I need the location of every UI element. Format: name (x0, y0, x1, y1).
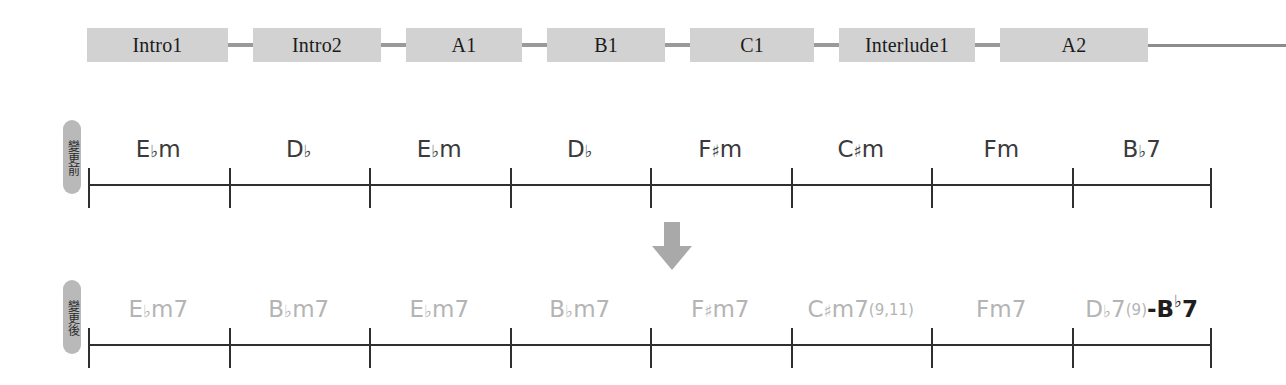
barline-tick (650, 328, 652, 368)
chord-root: B (268, 296, 284, 322)
chord-quality: m7 (292, 296, 329, 322)
chord-accidental: ♭ (143, 301, 151, 321)
dash-connector-icon (522, 43, 547, 47)
chord-root: D (1085, 296, 1103, 322)
dash-connector-icon (228, 43, 253, 47)
chord-root: B (1123, 136, 1139, 162)
chord-suffix: -B♭7 (1147, 292, 1198, 322)
barline-tick (791, 168, 793, 208)
dash-connector-icon (381, 43, 406, 47)
form-block-intro2[interactable]: Intro2 (253, 28, 381, 62)
chord-label[interactable]: C♯m (791, 112, 932, 166)
section-tag-after: 變更後 (63, 280, 81, 354)
chord-label[interactable]: D♭ (510, 112, 651, 166)
chord-root: D (286, 136, 304, 162)
form-block-intro1[interactable]: Intro1 (87, 28, 228, 62)
measure-grid-before (88, 168, 1212, 208)
barline-tick (229, 328, 231, 368)
chord-accidental: ♯ (704, 301, 712, 321)
chord-accidental: ♭ (585, 141, 593, 161)
barline-tick (931, 168, 933, 208)
chord-label[interactable]: E♭m7 (369, 272, 510, 326)
dash-connector-icon (665, 43, 690, 47)
chord-root: F (983, 136, 996, 162)
chord-quality: m7 (832, 296, 869, 322)
chord-quality: m (997, 136, 1019, 162)
chord-root: E (128, 296, 143, 322)
barline-tick (1210, 328, 1212, 368)
barline-tick (88, 168, 90, 208)
chord-label[interactable]: Fm (931, 112, 1072, 166)
chord-quality: m7 (712, 296, 749, 322)
barline-tick (369, 328, 371, 368)
chord-accidental: ♯ (853, 141, 861, 161)
barline-tick (1072, 328, 1074, 368)
chord-accidental: ♯ (824, 301, 832, 321)
chord-extension: (9,11) (869, 301, 914, 319)
barline-tick (229, 168, 231, 208)
song-form-timeline: Intro1Intro2A1B1C1Interlude1A2 (87, 28, 1286, 62)
chord-quality: 7 (1111, 296, 1126, 322)
barline-tick (791, 328, 793, 368)
form-block-c1[interactable]: C1 (690, 28, 814, 62)
chord-accidental: ♭ (1103, 301, 1111, 321)
chord-row-after: E♭m7B♭m7E♭m7B♭m7F♯m7C♯m7(9,11)Fm7D♭7(9)-… (88, 272, 1212, 326)
chord-root: C (808, 296, 824, 322)
barline-tick (1210, 168, 1212, 208)
chord-root: F (691, 296, 704, 322)
chord-label[interactable]: Fm7 (931, 272, 1072, 326)
section-tag-before: 變更前 (63, 120, 81, 194)
chord-label[interactable]: B♭m7 (510, 272, 651, 326)
chord-label[interactable]: D♭ (229, 112, 370, 166)
barline-tick (650, 168, 652, 208)
chord-accidental: ♯ (712, 141, 720, 161)
chord-label[interactable]: F♯m7 (650, 272, 791, 326)
form-block-b1[interactable]: B1 (547, 28, 665, 62)
transform-arrow-down-icon (652, 222, 692, 270)
measure-grid-after (88, 328, 1212, 368)
chord-root: D (567, 136, 585, 162)
chord-label[interactable]: F♯m (650, 112, 791, 166)
chord-quality: m7 (573, 296, 610, 322)
chord-root: B (549, 296, 565, 322)
timeline-continuation-line (1148, 44, 1286, 47)
chord-label[interactable]: E♭m (369, 112, 510, 166)
barline-tick (931, 328, 933, 368)
barline-tick (88, 328, 90, 368)
chord-accidental: ♭ (565, 301, 573, 321)
chord-accidental: ♭ (1138, 141, 1146, 161)
chord-quality: m (158, 136, 180, 162)
dash-connector-icon (814, 43, 839, 47)
form-block-a2[interactable]: A2 (1000, 28, 1148, 62)
chord-accidental: ♭ (304, 141, 312, 161)
barline-tick (510, 168, 512, 208)
chord-label[interactable]: B♭7 (1072, 112, 1213, 166)
chord-quality: m (439, 136, 461, 162)
chord-label[interactable]: C♯m7(9,11) (791, 272, 932, 326)
chord-root: E (136, 136, 151, 162)
chord-extension: (9) (1126, 301, 1147, 319)
chord-label[interactable]: E♭m7 (88, 272, 229, 326)
chord-root: E (409, 296, 424, 322)
chord-root: E (417, 136, 432, 162)
chord-root: C (837, 136, 853, 162)
chord-label[interactable]: D♭7(9)-B♭7 (1072, 272, 1213, 326)
chord-label[interactable]: E♭m (88, 112, 229, 166)
chord-accidental: ♭ (284, 301, 292, 321)
chord-label[interactable]: B♭m7 (229, 272, 370, 326)
form-block-a1[interactable]: A1 (406, 28, 522, 62)
barline-tick (510, 328, 512, 368)
chord-quality: m (720, 136, 742, 162)
chord-accidental: ♭ (431, 141, 439, 161)
dash-connector-icon (975, 43, 1000, 47)
chord-quality: m (862, 136, 884, 162)
barline-tick (1072, 168, 1074, 208)
chord-quality: m7 (989, 296, 1026, 322)
form-block-interlude1[interactable]: Interlude1 (839, 28, 975, 62)
chord-root: F (976, 296, 989, 322)
chord-quality: 7 (1146, 136, 1161, 162)
chord-root: F (698, 136, 711, 162)
barline-tick (369, 168, 371, 208)
chord-quality: m7 (151, 296, 188, 322)
chord-accidental: ♭ (150, 141, 158, 161)
